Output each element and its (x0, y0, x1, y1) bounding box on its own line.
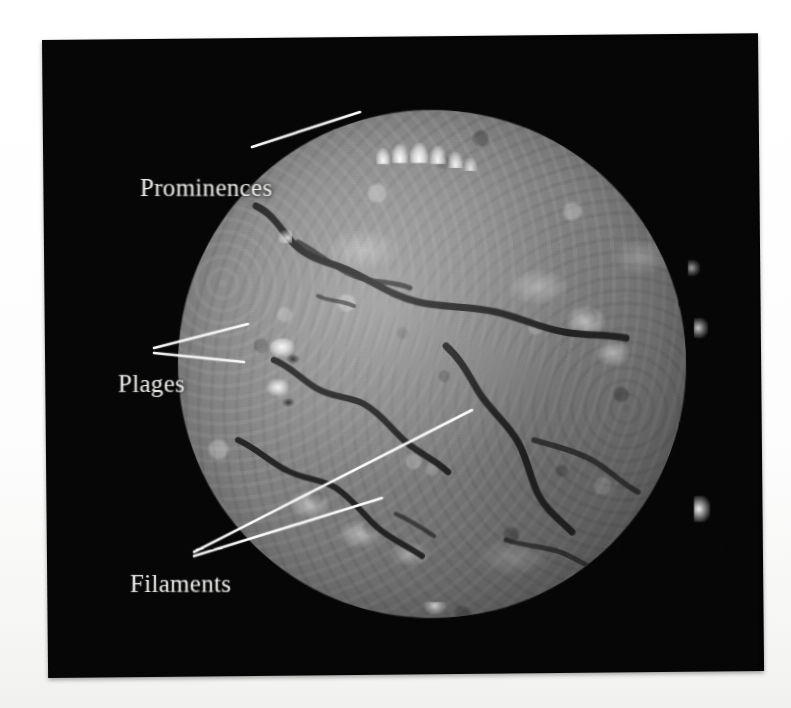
figure-page: Prominences Plages Filaments (0, 0, 791, 708)
leader-line-filaments-upper (194, 410, 472, 552)
leader-line-prominences (252, 112, 360, 147)
label-plages: Plages (118, 370, 185, 398)
solar-photograph-plate: Prominences Plages Filaments (42, 33, 764, 678)
leader-line-filaments-lower (194, 498, 382, 556)
leader-line-plages-lower (154, 353, 244, 362)
annotation-layer: Prominences Plages Filaments (42, 40, 758, 678)
label-prominences: Prominences (140, 174, 272, 202)
leader-line-plages-upper (154, 324, 248, 348)
photo-inner-frame: Prominences Plages Filaments (42, 40, 758, 678)
label-filaments: Filaments (130, 570, 231, 598)
